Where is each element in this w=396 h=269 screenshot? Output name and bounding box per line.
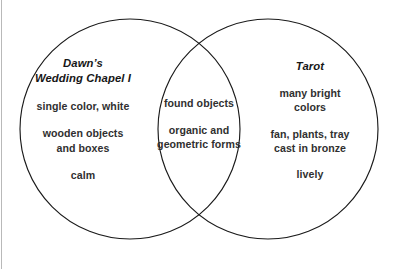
center-items-list: found objectsorganic andgeometric forms (144, 96, 254, 152)
region-item-line: calm (13, 168, 153, 182)
region-item-line: organic and (144, 123, 254, 137)
region-item: wooden objectsand boxes (13, 126, 153, 154)
region-item-line: and boxes (13, 141, 153, 155)
region-item: organic andgeometric forms (144, 123, 254, 151)
title-line: Tarot (248, 59, 372, 74)
region-item-line: lively (248, 167, 372, 181)
region-item: found objects (144, 96, 254, 110)
region-item: calm (13, 168, 153, 182)
region-item: many brightcolors (248, 86, 372, 114)
region-item-line: wooden objects (13, 126, 153, 140)
region-item-line: colors (248, 100, 372, 114)
region-item-line: cast in bronze (248, 141, 372, 155)
venn-diagram-canvas: Dawn’sWedding Chapel I single color, whi… (0, 0, 396, 269)
left-items-list: single color, whitewooden objectsand box… (13, 99, 153, 182)
left-only-region: Dawn’sWedding Chapel I single color, whi… (13, 56, 153, 182)
right-only-region: Tarot many brightcolorsfan, plants, tray… (248, 59, 372, 181)
right-items-list: many brightcolorsfan, plants, traycast i… (248, 86, 372, 181)
region-item-line: single color, white (13, 99, 153, 113)
region-item-line: fan, plants, tray (248, 127, 372, 141)
region-item-line: found objects (144, 96, 254, 110)
intersection-region: found objectsorganic andgeometric forms (144, 96, 254, 152)
region-item: lively (248, 167, 372, 181)
right-set-title: Tarot (248, 59, 372, 74)
title-line: Wedding Chapel I (13, 71, 153, 86)
region-item: single color, white (13, 99, 153, 113)
region-item: fan, plants, traycast in bronze (248, 127, 372, 155)
title-line: Dawn’s (13, 56, 153, 71)
left-set-title: Dawn’sWedding Chapel I (13, 56, 153, 86)
region-item-line: geometric forms (144, 137, 254, 151)
region-item-line: many bright (248, 86, 372, 100)
